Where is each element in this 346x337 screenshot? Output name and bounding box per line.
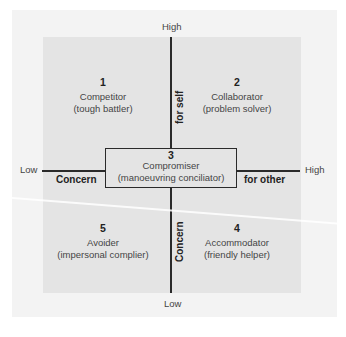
style-compromiser: 3 Compromiser (manoeuvring conciliator) [105,148,237,188]
style-number: 1 [48,76,158,88]
style-number: 5 [48,222,158,234]
horizontal-axis-high-label: High [305,164,325,175]
horizontal-axis-low-label: Low [20,164,37,175]
vertical-axis-low-label: Low [164,298,181,309]
style-number: 3 [106,150,236,160]
style-name: Collaborator [211,91,263,102]
style-accommodator: 4 Accommodator (friendly helper) [182,222,292,261]
style-description: (manoeuvring conciliator) [118,172,225,183]
concern-for-self-label-lower: Concern [174,221,185,262]
style-name: Accommodator [205,237,269,248]
style-description: (friendly helper) [204,249,270,260]
style-number: 2 [182,76,292,88]
style-collaborator: 2 Collaborator (problem solver) [182,76,292,115]
style-number: 4 [182,222,292,234]
style-name: Avoider [87,237,119,248]
style-description: (impersonal complier) [57,249,148,260]
concern-for-self-label-upper: for self [174,91,185,124]
style-name: Competitor [80,91,126,102]
style-avoider: 5 Avoider (impersonal complier) [48,222,158,261]
concern-for-other-label-left: Concern [56,174,97,185]
vertical-axis-high-label: High [162,21,182,32]
style-competitor: 1 Competitor (tough battler) [48,76,158,115]
style-description: (problem solver) [203,103,272,114]
style-name: Compromiser [142,160,199,171]
style-description: (tough battler) [73,103,132,114]
concern-for-other-label-right: for other [244,174,285,185]
